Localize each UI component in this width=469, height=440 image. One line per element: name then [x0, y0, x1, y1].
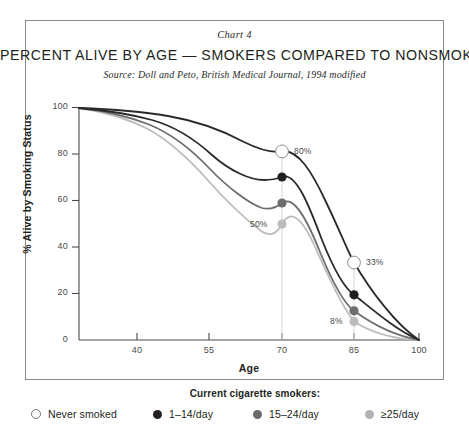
legend-item-never-smoked[interactable]: Never smoked — [31, 408, 117, 420]
x-axis-title: Age — [79, 362, 419, 374]
annotation-50-percent: 50% — [250, 219, 268, 229]
annotation-80-percent: 80% — [294, 146, 312, 156]
filled-circle-icon-medium — [253, 410, 262, 419]
legend-label-15-24-per-day: 15–24/day — [269, 408, 319, 420]
x-tick-label-55: 55 — [192, 345, 226, 355]
filled-circle-icon-light — [365, 410, 374, 419]
marker-1-14-70 — [277, 172, 286, 181]
open-circle-icon — [31, 409, 41, 419]
x-tick-label-70: 70 — [265, 345, 299, 355]
curve-1-14-final — [79, 108, 419, 340]
filled-circle-icon-dark — [153, 410, 162, 419]
chart-legend: Current cigarette smokers: Never smoked … — [25, 388, 444, 436]
y-tick-marks — [72, 108, 79, 294]
x-tick-marks — [137, 333, 419, 340]
y-tick-label-60: 60 — [42, 194, 68, 204]
marker-1-14-85 — [349, 290, 358, 299]
survival-curves — [79, 108, 419, 340]
marker-15-24-70 — [277, 198, 286, 207]
legend-label-1-14-per-day: 1–14/day — [169, 408, 213, 420]
y-tick-label-0: 0 — [42, 334, 68, 344]
y-axis-title: % Alive by Smoking Status — [21, 99, 33, 269]
legend-item-1-14-per-day[interactable]: 1–14/day — [153, 408, 213, 420]
marker-15-24-85 — [349, 306, 358, 315]
y-tick-label-40: 40 — [42, 241, 68, 251]
plot-area — [0, 0, 469, 440]
y-tick-label-100: 100 — [42, 101, 68, 111]
legend-label-never-smoked: Never smoked — [48, 408, 117, 420]
x-tick-label-40: 40 — [120, 345, 154, 355]
marker-ge25-70 — [277, 219, 286, 228]
x-tick-label-85: 85 — [337, 345, 371, 355]
legend-label-ge25-per-day: ≥25/day — [381, 408, 419, 420]
y-tick-label-80: 80 — [42, 148, 68, 158]
legend-item-ge25-per-day[interactable]: ≥25/day — [365, 408, 419, 420]
legend-heading: Current cigarette smokers: — [145, 388, 365, 399]
marker-ge25-85 — [349, 317, 358, 326]
y-tick-label-20: 20 — [42, 287, 68, 297]
marker-never-smoked-85 — [348, 256, 361, 269]
annotation-33-percent: 33% — [366, 257, 384, 267]
chart-figure: Chart 4 PERCENT ALIVE BY AGE — SMOKERS C… — [0, 0, 469, 440]
legend-item-15-24-per-day[interactable]: 15–24/day — [253, 408, 319, 420]
annotation-8-percent: 8% — [330, 316, 343, 326]
x-tick-label-100: 100 — [402, 345, 436, 355]
marker-never-smoked-70 — [276, 145, 289, 158]
